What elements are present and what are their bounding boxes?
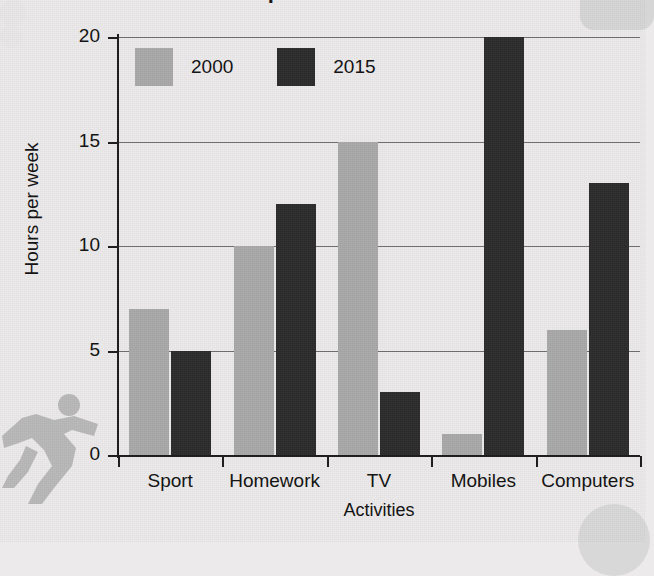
y-tick-label: 15 [56,130,100,152]
bar-tv-2000 [338,142,378,456]
x-tick-mark [118,456,120,467]
bar-homework-2015 [276,204,316,455]
x-tick-mark [536,456,538,467]
y-tick-label: 20 [56,25,100,47]
bar-sport-2015 [171,351,211,456]
x-axis-title: Activities [118,500,640,521]
y-tick-mark [108,142,118,144]
x-tick-label-tv: TV [327,470,431,492]
circle-blob-decoration-dot [0,26,22,48]
x-axis-line [117,455,640,457]
legend-label-2000: 2000 [191,56,233,78]
legend-swatch-2000 [135,48,173,86]
bar-homework-2000 [234,246,274,455]
x-tick-label-mobiles: Mobiles [431,470,535,492]
y-tick-mark [108,246,118,248]
chart-title-text: Time spent on activities [0,0,646,4]
x-tick-mark [431,456,433,467]
x-tick-mark [222,456,224,467]
legend-item-2000[interactable]: 2000 [135,48,233,86]
bar-mobiles-2000 [442,434,482,455]
gridline [118,246,640,247]
chart-title-cropped: Time spent on activities [0,0,646,14]
y-tick-label: 0 [56,443,100,465]
bar-tv-2015 [380,392,420,455]
legend-label-2015: 2015 [333,56,375,78]
bar-sport-2000 [129,309,169,455]
chart-legend: 2000 2015 [135,48,376,86]
gridline [118,142,640,143]
x-tick-label-homework: Homework [222,470,326,492]
legend-swatch-2015 [277,48,315,86]
y-tick-mark [108,351,118,353]
y-tick-mark [108,37,118,39]
gridline [118,37,640,38]
legend-item-2015[interactable]: 2015 [277,48,375,86]
bar-computers-2000 [547,330,587,455]
x-tick-mark [640,456,642,467]
x-tick-label-sport: Sport [118,470,222,492]
x-tick-label-computers: Computers [536,470,640,492]
y-tick-mark [108,455,118,457]
bar-mobiles-2015 [484,37,524,455]
y-tick-label: 10 [56,234,100,256]
plot-area [118,37,640,455]
bar-computers-2015 [589,183,629,455]
x-tick-mark [327,456,329,467]
y-axis-title: Hours per week [21,129,43,289]
y-tick-label: 5 [56,339,100,361]
